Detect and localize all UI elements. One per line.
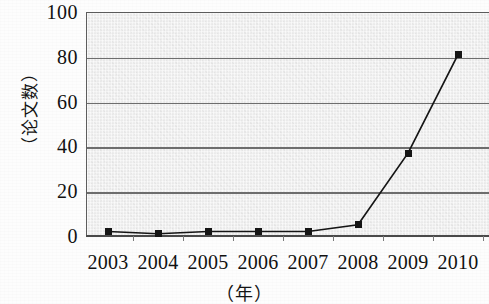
data-point-marker <box>305 228 312 235</box>
data-point-marker <box>405 150 412 157</box>
line-chart-figure: 100806040200 （论文数） 200320042005200620072… <box>0 0 489 304</box>
data-point-marker <box>105 228 112 235</box>
data-point-marker <box>455 51 462 58</box>
data-point-marker <box>205 228 212 235</box>
data-point-markers <box>0 0 489 304</box>
data-point-marker <box>355 221 362 228</box>
data-point-marker <box>255 228 262 235</box>
data-point-marker <box>155 230 162 237</box>
